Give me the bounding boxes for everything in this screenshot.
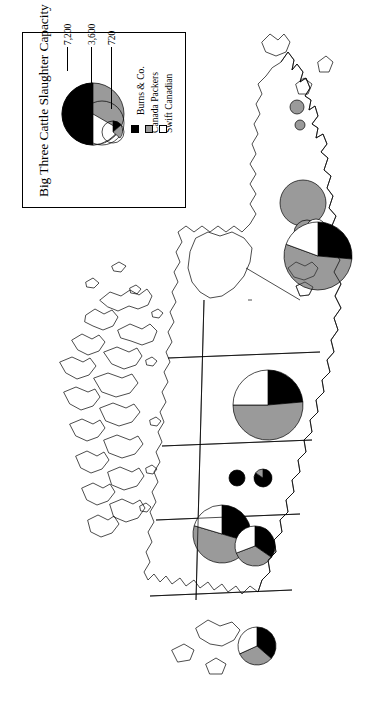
legend-entry-label-canada-packers: Canada Packers [149, 72, 160, 133]
leader-line-720 [111, 47, 112, 109]
leader-line-7200 [67, 47, 68, 71]
figure-canvas: Big Three Cattle Slaughter Capacity [0, 0, 391, 703]
black-swatch [131, 125, 139, 133]
legend-panel: Big Three Cattle Slaughter Capacity [22, 32, 186, 208]
white-swatch [159, 125, 167, 133]
legend-title: Big Three Cattle Slaughter Capacity [36, 4, 52, 197]
scale-circles-graphic [57, 69, 133, 159]
scale-label-3600: 3,600 [87, 24, 97, 45]
gray-swatch [145, 125, 153, 133]
legend-entry-label-burns: Burns & Co. [135, 66, 146, 115]
scale-label-7200: 7,200 [63, 24, 73, 45]
scale-sample-pie [62, 83, 124, 145]
leader-line-3600 [91, 47, 92, 91]
scale-label-720: 720 [107, 31, 117, 45]
